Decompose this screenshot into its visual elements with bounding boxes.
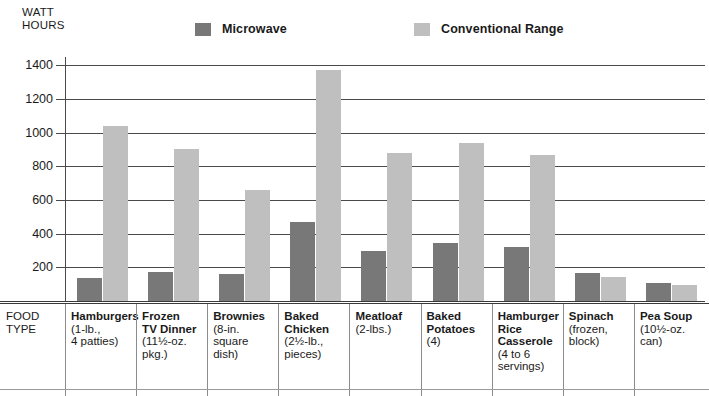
bar-conventional-range	[103, 126, 128, 301]
legend-item-conventional-range: Conventional Range	[414, 21, 564, 37]
category-sublabel: (4)	[427, 335, 490, 348]
bar-microwave	[361, 251, 386, 301]
y-axis-tick-label: 400	[7, 227, 53, 241]
bar-microwave	[77, 278, 102, 301]
category-sublabel: (4 to 6 servings)	[498, 348, 561, 373]
category-separator	[563, 304, 564, 396]
category-sublabel: (1-lb., 4 patties)	[71, 323, 134, 348]
legend-label-conventional-range: Conventional Range	[441, 22, 564, 36]
bar-group	[349, 57, 420, 301]
category-table-top-rule	[0, 303, 709, 304]
category-name: Baked Chicken	[284, 310, 347, 335]
category-cell: Frozen TV Dinner(11½-oz. pkg.)	[142, 310, 205, 360]
bar-group	[634, 57, 705, 301]
legend-item-microwave: Microwave	[195, 21, 287, 37]
category-cell: Hamburger Rice Casserole(4 to 6 servings…	[498, 310, 561, 373]
category-name: Brownies	[213, 310, 276, 323]
category-separator	[278, 304, 279, 396]
bar-microwave	[646, 283, 671, 302]
bar-group	[421, 57, 492, 301]
y-axis-tick-label: 200	[7, 260, 53, 274]
bar-group	[492, 57, 563, 301]
category-separator	[207, 304, 208, 396]
category-separator	[136, 304, 137, 396]
category-cell: Brownies(8-in. square dish)	[213, 310, 276, 360]
bar-group	[136, 57, 207, 301]
bar-microwave	[219, 274, 244, 301]
y-axis-tick	[56, 99, 65, 100]
category-cell: Hamburgers(1-lb., 4 patties)	[71, 310, 134, 348]
category-sublabel: (2-lbs.)	[355, 323, 418, 336]
y-axis-tick	[56, 200, 65, 201]
bar-group	[563, 57, 634, 301]
bar-microwave	[575, 273, 600, 301]
y-axis-tick	[56, 166, 65, 167]
plot-area: 200400600800100012001400	[65, 57, 705, 302]
legend-label-microwave: Microwave	[222, 22, 287, 36]
category-cell: Baked Chicken(2½-lb., pieces)	[284, 310, 347, 360]
bar-groups	[65, 57, 705, 301]
y-axis-tick-label: 1000	[7, 126, 53, 140]
y-axis-tick	[56, 65, 65, 66]
watt-hours-bar-chart: WATT HOURS Microwave Conventional Range …	[0, 0, 709, 396]
y-axis-title: WATT HOURS	[22, 6, 65, 31]
bar-conventional-range	[459, 143, 484, 301]
category-separator	[421, 304, 422, 396]
category-separator	[349, 304, 350, 396]
y-axis-tick	[56, 234, 65, 235]
category-cell: Baked Potatoes(4)	[427, 310, 490, 348]
category-name: Spinach	[569, 310, 632, 323]
bar-conventional-range	[601, 277, 626, 301]
y-axis-tick	[56, 133, 65, 134]
bar-conventional-range	[245, 190, 270, 301]
bar-group	[65, 57, 136, 301]
category-table: FOOD TYPE Hamburgers(1-lb., 4 patties)Fr…	[0, 303, 709, 396]
footer-rule	[0, 389, 709, 390]
category-name: Hamburger Rice Casserole	[498, 310, 561, 348]
bar-microwave	[290, 222, 315, 301]
category-sublabel: (10½-oz. can)	[640, 323, 703, 348]
bar-conventional-range	[174, 149, 199, 301]
category-name: Meatloaf	[355, 310, 418, 323]
bar-group	[278, 57, 349, 301]
bar-conventional-range	[672, 285, 697, 301]
category-cell: Pea Soup(10½-oz. can)	[640, 310, 703, 348]
category-sublabel: (8-in. square dish)	[213, 323, 276, 361]
y-axis-tick-label: 1400	[7, 58, 53, 72]
bar-microwave	[433, 243, 458, 301]
category-cell: Spinach(frozen, block)	[569, 310, 632, 348]
y-axis-tick-label: 1200	[7, 92, 53, 106]
category-name: Frozen TV Dinner	[142, 310, 205, 335]
y-axis-tick-label: 800	[7, 159, 53, 173]
category-sublabel: (11½-oz. pkg.)	[142, 335, 205, 360]
category-separator	[492, 304, 493, 396]
category-separator	[65, 304, 66, 396]
y-axis-tick-label: 600	[7, 193, 53, 207]
bar-microwave	[504, 247, 529, 301]
bar-microwave	[148, 272, 173, 301]
bar-conventional-range	[387, 153, 412, 301]
category-sublabel: (2½-lb., pieces)	[284, 335, 347, 360]
legend-swatch-microwave	[195, 23, 211, 36]
bar-group	[207, 57, 278, 301]
bar-conventional-range	[530, 155, 555, 301]
food-type-header: FOOD TYPE	[6, 310, 62, 335]
legend-swatch-conventional-range	[414, 23, 430, 36]
category-sublabel: (frozen, block)	[569, 323, 632, 348]
category-separator	[634, 304, 635, 396]
bar-conventional-range	[316, 70, 341, 301]
category-name: Baked Potatoes	[427, 310, 490, 335]
y-axis-tick	[56, 267, 65, 268]
category-name: Pea Soup	[640, 310, 703, 323]
category-name: Hamburgers	[71, 310, 134, 323]
category-cell: Meatloaf(2-lbs.)	[355, 310, 418, 335]
